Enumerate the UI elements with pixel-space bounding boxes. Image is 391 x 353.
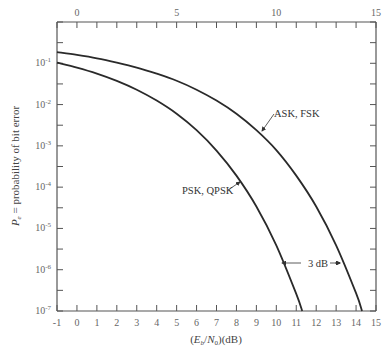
x-tick-label: 3	[134, 317, 139, 328]
ask-fsk-arrow	[262, 114, 274, 131]
y-tick-label: 10-1	[35, 56, 51, 68]
y-tick-label: 10-7	[35, 304, 51, 316]
x-tick-label: 0	[74, 317, 79, 328]
psk-qpsk-label: PSK, QPSK	[182, 185, 234, 196]
x-axis-top-tick-labels: 051015	[74, 7, 381, 18]
x-tick-label: 10	[271, 317, 281, 328]
x-tick-label: 5	[174, 317, 179, 328]
curve-psk-qpsk	[57, 63, 302, 311]
curves	[57, 52, 362, 311]
x-tick-label: 9	[254, 317, 259, 328]
x-tick-label: -1	[53, 317, 61, 328]
y-tick-label: 10-3	[35, 139, 51, 151]
y-axis-title: Pe = probability of bit error	[9, 106, 23, 228]
x-tick-label: 11	[291, 317, 301, 328]
annotations: ASK, FSKPSK, QPSK3 dB	[182, 108, 340, 269]
three-db-label: 3 dB	[308, 258, 328, 269]
bit-error-rate-chart: -10123456789101112131415 051015 10-110-2…	[0, 0, 391, 353]
ask-fsk-label: ASK, FSK	[274, 108, 320, 119]
x-axis-title: (Eb/N0)(dB)	[190, 333, 242, 347]
y-tick-label: 10-2	[35, 98, 51, 110]
x-tick-label: 15	[371, 317, 381, 328]
y-axis-tick-labels: 10-110-210-310-410-510-610-7	[35, 56, 51, 316]
y-tick-label: 10-4	[35, 180, 51, 192]
x-tick-label: 8	[234, 317, 239, 328]
x-top-tick-label: 5	[174, 7, 179, 18]
x-top-tick-label: 10	[271, 7, 281, 18]
x-tick-label: 13	[331, 317, 341, 328]
curve-ask-fsk	[57, 52, 362, 311]
x-axis-bottom-tick-labels: -10123456789101112131415	[53, 317, 381, 328]
axis-ticks	[57, 22, 376, 311]
x-tick-label: 6	[194, 317, 199, 328]
x-tick-label: 12	[311, 317, 321, 328]
plot-frame	[57, 22, 376, 311]
y-tick-label: 10-5	[35, 221, 51, 233]
x-tick-label: 1	[94, 317, 99, 328]
x-top-tick-label: 15	[371, 7, 381, 18]
x-tick-label: 7	[214, 317, 219, 328]
x-top-tick-label: 0	[74, 7, 79, 18]
x-tick-label: 2	[114, 317, 119, 328]
y-tick-label: 10-6	[35, 263, 51, 275]
x-tick-label: 14	[351, 317, 361, 328]
x-tick-label: 4	[154, 317, 159, 328]
